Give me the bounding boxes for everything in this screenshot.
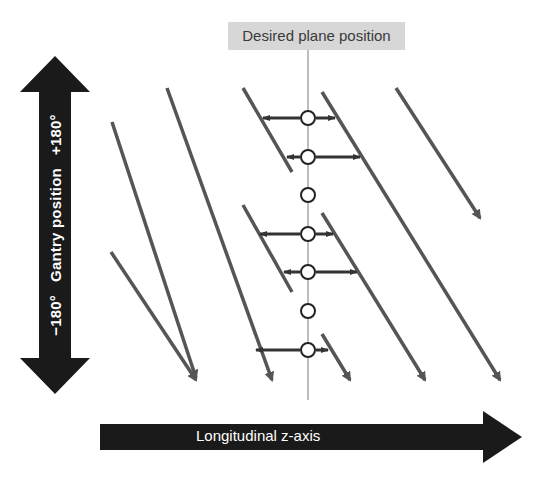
sample-point-circle	[301, 227, 315, 241]
helical-path-line	[322, 334, 350, 380]
gantry-axis-title: Gantry position	[47, 168, 64, 282]
helical-path-line	[111, 252, 196, 380]
sample-point-circle	[301, 304, 315, 318]
sample-point-circle	[301, 343, 315, 357]
helical-path-line	[243, 205, 292, 292]
helical-path-line	[112, 122, 196, 378]
sample-point-circle	[301, 188, 315, 202]
helical-path-line	[322, 213, 425, 380]
gantry-max-label: +180°	[47, 114, 64, 155]
diagram-canvas	[0, 0, 543, 490]
sample-point-circle	[301, 111, 315, 125]
helical-path-line	[322, 92, 500, 380]
helical-path-line	[396, 88, 480, 218]
helical-path-line	[243, 88, 292, 172]
desired-plane-label: Desired plane position	[228, 22, 405, 50]
gantry-min-label: −180°	[47, 295, 64, 336]
gantry-axis-label: −180° Gantry position +180°	[47, 114, 64, 336]
sample-point-circle	[301, 265, 315, 279]
sample-point-circle	[301, 150, 315, 164]
z-axis-label: Longitudinal z-axis	[196, 425, 366, 447]
